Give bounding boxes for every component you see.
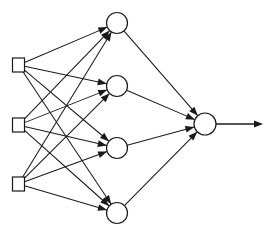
arrowheads-group xyxy=(97,27,198,211)
neural-network-canvas xyxy=(0,0,275,233)
arrowhead-i1-to-h2 xyxy=(97,79,107,86)
edge-h2-to-o1 xyxy=(127,90,195,119)
edge-i3-to-h4 xyxy=(25,186,107,210)
hidden-node-1[interactable] xyxy=(107,13,128,34)
hidden-node-2[interactable] xyxy=(107,76,128,97)
arrowhead-i2-to-h3 xyxy=(97,140,107,147)
hidden-node-4[interactable] xyxy=(107,203,128,224)
nodes-group xyxy=(13,13,217,224)
input-node-3[interactable] xyxy=(13,177,25,191)
arrowhead-h3-to-o1 xyxy=(185,126,195,133)
edge-h1-to-o1 xyxy=(124,31,198,116)
arrowhead-i3-to-h3 xyxy=(98,152,108,158)
edge-h3-to-o1 xyxy=(127,127,194,145)
output-arrow-group xyxy=(216,121,263,128)
output-arrow-head xyxy=(254,121,263,128)
output-node-1[interactable] xyxy=(194,113,216,135)
edge-i3-to-h3 xyxy=(25,152,108,182)
input-node-1[interactable] xyxy=(13,58,25,72)
arrowhead-i3-to-h4 xyxy=(97,204,107,211)
neural-network-diagram xyxy=(0,0,275,233)
edge-i1-to-h1 xyxy=(25,27,108,62)
edges-group xyxy=(23,27,198,210)
edge-i2-to-h4 xyxy=(25,130,110,206)
edge-i1-to-h2 xyxy=(25,66,107,84)
hidden-node-3[interactable] xyxy=(107,138,128,159)
edge-i1-to-h4 xyxy=(23,72,111,204)
input-node-2[interactable] xyxy=(13,118,25,132)
arrowhead-h2-to-o1 xyxy=(185,113,195,120)
